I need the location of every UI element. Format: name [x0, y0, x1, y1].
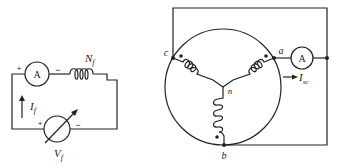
short-circuit-ammeter-label: A	[298, 53, 306, 64]
field-voltmeter-plus: +	[38, 119, 43, 128]
field-voltmeter	[44, 116, 70, 142]
polarity-dot-a	[264, 54, 268, 58]
circuit-diagram: A + − Nf If + − Vf c a b n A Isc	[0, 0, 338, 168]
rail-junction-dot	[325, 56, 329, 60]
field-coil-label: Nf	[84, 52, 96, 67]
field-coil	[70, 69, 93, 80]
node-a-dot	[272, 56, 276, 60]
polarity-dot-b	[215, 135, 219, 139]
node-b-dot	[222, 143, 226, 147]
phase-c-coil	[173, 58, 223, 87]
node-c-label: c	[164, 47, 169, 58]
field-voltage-label: Vf	[54, 147, 65, 162]
field-circuit	[12, 62, 117, 143]
phase-b-coil	[214, 87, 225, 145]
node-a-label: a	[279, 45, 284, 56]
node-c-dot	[171, 56, 175, 60]
field-current-label: If	[29, 100, 38, 115]
stator-circuit	[165, 8, 327, 145]
node-b-label: b	[222, 150, 227, 161]
field-ammeter-minus: −	[55, 65, 60, 75]
node-n-label: n	[228, 86, 233, 96]
field-voltmeter-minus: −	[75, 120, 80, 130]
short-circuit-current-label: Isc	[298, 71, 309, 86]
phase-a-coil	[223, 58, 274, 87]
field-ammeter-label: A	[33, 69, 41, 80]
field-ammeter-plus: +	[17, 64, 22, 73]
polarity-dot-c	[179, 54, 183, 58]
